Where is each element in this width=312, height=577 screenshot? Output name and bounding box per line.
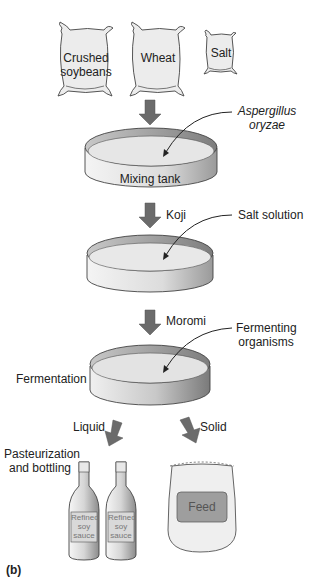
label-line: soy xyxy=(108,522,134,531)
label-line: and bottling xyxy=(4,461,76,475)
label-line: Crushed xyxy=(60,51,112,65)
flow-label-liquid: Liquid xyxy=(73,420,105,434)
ingredient-label-soybeans: Crushed soybeans xyxy=(60,51,112,79)
fermentation-tank xyxy=(90,345,210,405)
bottle-2-label: Refined soy sauce xyxy=(108,513,134,540)
ingredient-label-wheat: Wheat xyxy=(132,51,184,65)
flow-label-solid: Solid xyxy=(200,420,227,434)
process-label-pasteurization: Pasteurization and bottling xyxy=(4,447,76,475)
label-line: organisms xyxy=(236,335,296,349)
label-line: sauce xyxy=(71,531,97,540)
arrow-liquid xyxy=(105,420,123,446)
label-line: Refined xyxy=(108,513,134,522)
diagram-canvas xyxy=(0,0,312,577)
arrow-solid xyxy=(180,417,200,443)
label-line: Aspergillus xyxy=(232,104,302,118)
flow-label-moromi: Moromi xyxy=(166,314,206,328)
mixing-tank-label: Mixing tank xyxy=(100,172,200,186)
flow-label-koji: Koji xyxy=(166,208,186,222)
label-line: sauce xyxy=(108,531,134,540)
ingredient-label-salt: Salt xyxy=(205,46,237,60)
label-line: Pasteurization xyxy=(4,447,76,461)
salt-solution-tank xyxy=(87,235,213,292)
label-line: soybeans xyxy=(60,65,112,79)
arrow-koji xyxy=(139,203,161,228)
label-line: oryzae xyxy=(232,118,302,132)
label-line: soy xyxy=(71,522,97,531)
bottle-1-label: Refined soy sauce xyxy=(71,513,97,540)
input-label-salt-solution: Salt solution xyxy=(238,208,303,222)
input-label-aspergillus: Aspergillus oryzae xyxy=(232,104,302,132)
stage-label-fermentation: Fermentation xyxy=(16,372,87,386)
arrow-to-mixing-tank xyxy=(139,100,161,125)
label-line: Refined xyxy=(71,513,97,522)
input-label-fermenting-organisms: Fermenting organisms xyxy=(236,321,296,349)
panel-label: (b) xyxy=(6,563,21,577)
feed-bag-label: Feed xyxy=(177,500,227,514)
bottle-2 xyxy=(106,462,136,560)
bottle-1 xyxy=(69,462,99,560)
arrow-moromi xyxy=(139,310,161,335)
label-line: Fermenting xyxy=(236,321,296,335)
